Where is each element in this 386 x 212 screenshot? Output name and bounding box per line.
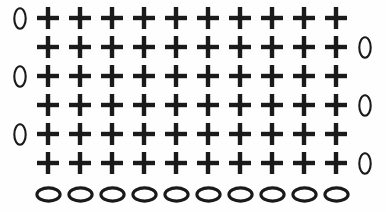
- plus-icon: [261, 123, 283, 145]
- plus-icon: [229, 36, 251, 58]
- symbol-row: [0, 0, 386, 212]
- horizontal-ellipse-icon: [131, 186, 158, 203]
- plus-icon: [197, 152, 219, 174]
- plus-icon: [165, 65, 187, 87]
- symbol-row: [0, 0, 386, 212]
- plus-icon: [165, 152, 187, 174]
- vertical-oval-icon: [13, 123, 27, 146]
- plus-icon: [37, 123, 59, 145]
- plus-icon: [261, 65, 283, 87]
- plus-icon: [69, 94, 91, 116]
- symbol-grid-canvas: Plus-sign grid with oval markers: [0, 0, 386, 212]
- plus-icon: [165, 123, 187, 145]
- horizontal-ellipse-icon: [195, 186, 222, 203]
- vertical-oval-icon: [358, 94, 372, 117]
- plus-icon: [261, 94, 283, 116]
- plus-icon: [229, 123, 251, 145]
- plus-icon: [69, 152, 91, 174]
- vertical-oval-icon: [358, 36, 372, 59]
- plus-icon: [229, 152, 251, 174]
- horizontal-ellipse-icon: [227, 186, 254, 203]
- plus-icon: [165, 7, 187, 29]
- plus-icon: [261, 7, 283, 29]
- symbol-row: [0, 0, 386, 212]
- horizontal-ellipse-icon: [323, 186, 350, 203]
- plus-icon: [261, 152, 283, 174]
- plus-icon: [165, 94, 187, 116]
- plus-icon: [101, 123, 123, 145]
- plus-icon: [197, 94, 219, 116]
- vertical-oval-icon: [13, 7, 27, 30]
- plus-icon: [197, 36, 219, 58]
- horizontal-ellipse-icon: [259, 186, 286, 203]
- plus-icon: [293, 94, 315, 116]
- plus-icon: [133, 36, 155, 58]
- plus-icon: [133, 7, 155, 29]
- plus-icon: [69, 123, 91, 145]
- vertical-oval-icon: [13, 65, 27, 88]
- plus-icon: [325, 94, 347, 116]
- plus-icon: [69, 36, 91, 58]
- plus-icon: [325, 123, 347, 145]
- plus-icon: [325, 65, 347, 87]
- plus-icon: [69, 7, 91, 29]
- symbol-row: [0, 0, 386, 212]
- plus-icon: [261, 36, 283, 58]
- plus-icon: [293, 36, 315, 58]
- horizontal-ellipse-icon: [67, 186, 94, 203]
- plus-icon: [197, 123, 219, 145]
- plus-icon: [229, 94, 251, 116]
- plus-icon: [325, 7, 347, 29]
- horizontal-ellipse-icon: [35, 186, 62, 203]
- plus-icon: [293, 152, 315, 174]
- plus-icon: [37, 7, 59, 29]
- symbol-row: [0, 0, 386, 212]
- plus-icon: [69, 65, 91, 87]
- plus-icon: [325, 36, 347, 58]
- plus-icon: [133, 65, 155, 87]
- horizontal-ellipse-icon: [99, 186, 126, 203]
- plus-icon: [325, 152, 347, 174]
- horizontal-ellipse-icon: [291, 186, 318, 203]
- plus-icon: [37, 152, 59, 174]
- plus-icon: [133, 152, 155, 174]
- plus-icon: [101, 65, 123, 87]
- plus-icon: [101, 152, 123, 174]
- plus-icon: [293, 65, 315, 87]
- plus-icon: [101, 7, 123, 29]
- plus-icon: [293, 123, 315, 145]
- plus-icon: [197, 65, 219, 87]
- plus-icon: [37, 36, 59, 58]
- plus-icon: [229, 7, 251, 29]
- plus-icon: [37, 94, 59, 116]
- vertical-oval-icon: [358, 152, 372, 175]
- horizontal-ellipse-icon: [163, 186, 190, 203]
- plus-icon: [101, 36, 123, 58]
- plus-icon: [197, 7, 219, 29]
- plus-icon: [37, 65, 59, 87]
- plus-icon: [133, 123, 155, 145]
- plus-icon: [133, 94, 155, 116]
- plus-icon: [165, 36, 187, 58]
- symbol-row: [0, 0, 386, 212]
- ellipse-row: [0, 0, 386, 212]
- plus-icon: [101, 94, 123, 116]
- plus-icon: [229, 65, 251, 87]
- plus-icon: [293, 7, 315, 29]
